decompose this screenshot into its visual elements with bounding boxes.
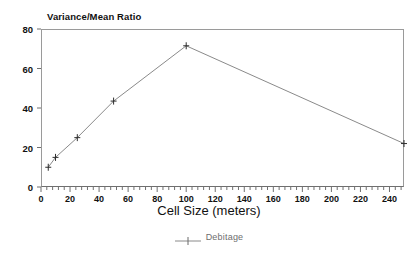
x-axis-minor-ticks (47, 187, 401, 190)
legend-label-debitage: Debitage (206, 232, 244, 242)
legend-line-plus-marker (175, 232, 201, 242)
y-axis-ticks (37, 29, 41, 187)
y-tick-label: 60 (3, 63, 33, 74)
y-tick-label: 40 (3, 103, 33, 114)
y-tick-label: 20 (3, 142, 33, 153)
x-axis-title: Cell Size (meters) (0, 203, 418, 218)
variance-mean-ratio-chart: Variance/Mean Ratio 020406080 0204060801… (0, 0, 418, 259)
y-tick-label: 80 (3, 24, 33, 35)
series-line-debitage (48, 46, 404, 167)
chart-svg-layer (0, 0, 418, 259)
y-tick-label: 0 (3, 182, 33, 193)
series-markers-debitage (45, 42, 407, 170)
chart-legend: Debitage (0, 232, 418, 242)
